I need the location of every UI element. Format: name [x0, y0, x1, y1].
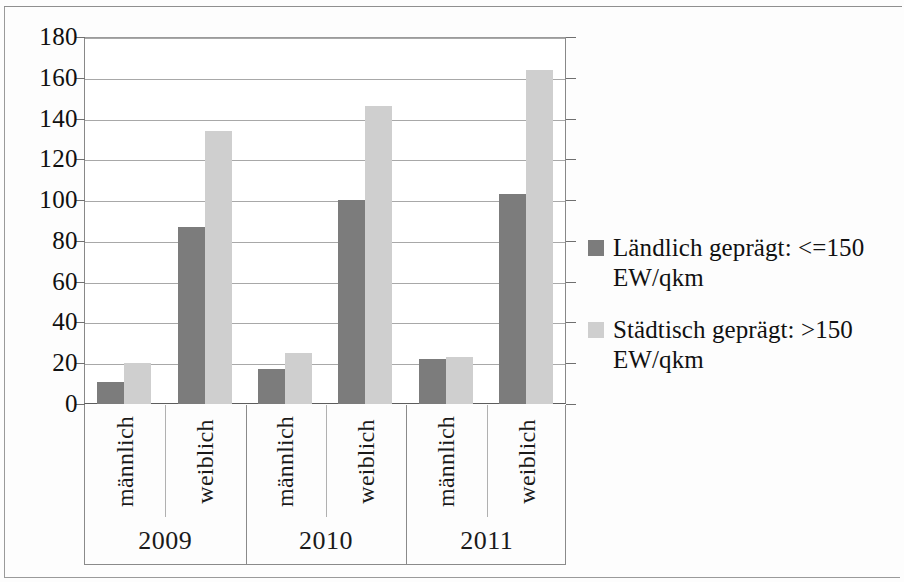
chart-legend: Ländlich geprägt: <=150EW/qkmStädtisch g…	[588, 233, 893, 397]
bar	[97, 382, 124, 404]
legend-label: Städtisch geprägt: >150EW/qkm	[613, 315, 853, 375]
axis-tick-mark	[566, 241, 576, 242]
bar	[446, 357, 473, 404]
x-category-label: männlich	[406, 405, 486, 517]
legend-item[interactable]: Städtisch geprägt: >150EW/qkm	[588, 315, 893, 375]
bar	[285, 353, 312, 404]
x-category-label: weiblich	[326, 405, 406, 517]
legend-label-line2: EW/qkm	[613, 263, 864, 293]
category-separator	[326, 405, 327, 517]
y-tick-label: 120	[6, 146, 78, 171]
axis-tick-mark	[566, 159, 576, 160]
y-tick-label: 180	[6, 24, 78, 49]
x-category-label-text: weiblich	[513, 419, 540, 503]
x-category-label-text: weiblich	[353, 419, 380, 503]
y-tick-label: 140	[6, 106, 78, 131]
bar	[338, 200, 365, 404]
x-category-label: männlich	[85, 405, 165, 517]
axis-tick-mark	[566, 404, 576, 405]
bar-series-container	[84, 37, 566, 404]
bar	[124, 363, 151, 404]
legend-item[interactable]: Ländlich geprägt: <=150EW/qkm	[588, 233, 893, 293]
legend-label-line1: Städtisch geprägt: >150	[613, 315, 853, 345]
bar	[178, 227, 205, 404]
x-category-label-text: männlich	[272, 416, 299, 507]
y-tick-label: 100	[6, 187, 78, 212]
x-category-label: weiblich	[487, 405, 567, 517]
y-tick-label: 20	[6, 350, 78, 375]
x-category-label: männlich	[246, 405, 326, 517]
y-axis-tick-labels: 020406080100120140160180	[0, 37, 78, 404]
x-axis-labels: männlichweiblich2009männlichweiblich2010…	[84, 405, 566, 565]
grouped-bar-chart: 020406080100120140160180 männlichweiblic…	[0, 0, 904, 582]
axis-tick-mark	[566, 282, 576, 283]
category-separator	[165, 405, 166, 517]
chart-page: 020406080100120140160180 männlichweiblic…	[0, 0, 904, 582]
axis-tick-mark	[566, 78, 576, 79]
legend-label-line1: Ländlich geprägt: <=150	[613, 233, 864, 263]
bar	[419, 359, 446, 404]
y-tick-label: 160	[6, 65, 78, 90]
x-category-label-text: männlich	[112, 416, 139, 507]
axis-tick-mark	[566, 200, 576, 201]
bar	[258, 369, 285, 404]
y-tick-label: 40	[6, 309, 78, 334]
legend-label-line2: EW/qkm	[613, 345, 853, 375]
legend-label: Ländlich geprägt: <=150EW/qkm	[613, 233, 864, 293]
axis-tick-mark	[566, 119, 576, 120]
x-category-label-text: weiblich	[192, 419, 219, 503]
axis-tick-mark	[566, 363, 576, 364]
y-tick-label: 80	[6, 228, 78, 253]
bar	[205, 131, 232, 404]
bar	[526, 70, 553, 404]
category-separator	[487, 405, 488, 517]
x-category-label: weiblich	[165, 405, 245, 517]
bar	[365, 106, 392, 404]
x-group-label: 2011	[406, 518, 567, 564]
x-group-label: 2010	[246, 518, 407, 564]
bar	[499, 194, 526, 404]
y-tick-label: 60	[6, 269, 78, 294]
x-category-label-text: männlich	[433, 416, 460, 507]
axis-tick-mark	[566, 322, 576, 323]
y-tick-label: 0	[6, 391, 78, 416]
legend-swatch-icon	[588, 240, 604, 256]
legend-swatch-icon	[588, 322, 604, 338]
x-group-label: 2009	[85, 518, 246, 564]
axis-tick-mark	[566, 37, 576, 38]
